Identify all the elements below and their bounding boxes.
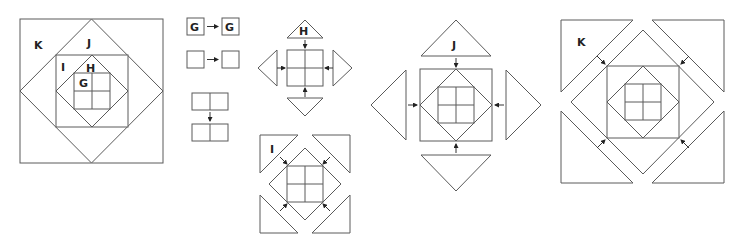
arrow-icon — [323, 157, 330, 164]
label-k: K — [577, 36, 586, 49]
label-g: G — [79, 77, 88, 90]
triangle-h-right — [333, 50, 352, 86]
label-k: K — [34, 39, 43, 52]
label-g-right: G — [225, 21, 234, 34]
label-i: I — [61, 61, 65, 74]
four-patch-steps: G G — [187, 18, 239, 141]
triangle-j-left — [371, 70, 406, 140]
label-i: I — [270, 143, 274, 156]
arrow-icon — [597, 56, 605, 64]
arrow-icon — [280, 204, 287, 211]
label-g-left: G — [190, 21, 199, 34]
square-plain-right — [222, 51, 239, 68]
square-plain-left — [187, 51, 204, 68]
arrow-icon — [681, 140, 689, 148]
step-i: I — [260, 135, 350, 233]
label-h: H — [299, 25, 308, 38]
step-j: J — [371, 20, 541, 191]
label-j: J — [86, 37, 91, 50]
triangle-h-left — [258, 50, 277, 86]
label-j: J — [451, 39, 456, 52]
triangle-h-bottom — [287, 98, 323, 116]
arrow-icon — [323, 204, 330, 211]
arrow-icon — [597, 140, 605, 148]
step-k: K — [561, 20, 724, 183]
arrow-icon — [280, 157, 287, 164]
triangle-j-bottom — [421, 155, 491, 191]
label-h: H — [86, 62, 95, 75]
triangle-j-right — [506, 70, 541, 140]
quilt-assembly-diagram: K J I H G G G H — [0, 0, 741, 238]
arrow-icon — [681, 56, 689, 64]
assembled-block: K J I H G — [20, 19, 163, 163]
step-h: H — [258, 20, 352, 116]
